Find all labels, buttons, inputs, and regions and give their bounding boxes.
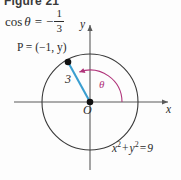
point-p-marker xyxy=(65,59,72,66)
coordinate-plane-diagram xyxy=(0,0,181,180)
radius-segment xyxy=(68,62,90,102)
circle-eq-plus: + xyxy=(122,142,129,154)
y-axis-arrowhead xyxy=(87,25,92,31)
angle-theta-label: θ xyxy=(99,78,104,90)
figure-container: Figure 21 cos θ = − 1 3 P = (−1, y) 3 O … xyxy=(0,0,181,180)
y-axis-label: y xyxy=(80,18,85,30)
origin-label: O xyxy=(83,103,92,118)
circle-eq-equals: = xyxy=(140,142,147,154)
circle-eq-value: 9 xyxy=(147,142,153,154)
point-p-label: P = (−1, y) xyxy=(17,41,67,53)
circle-eq-y-exponent: 2 xyxy=(135,140,139,149)
x-axis-label: x xyxy=(166,103,171,115)
circle-eq-x-exponent: 2 xyxy=(117,140,121,149)
circle-equation-label: x2+y2=9 xyxy=(112,140,153,154)
radius-length-label: 3 xyxy=(65,72,71,87)
